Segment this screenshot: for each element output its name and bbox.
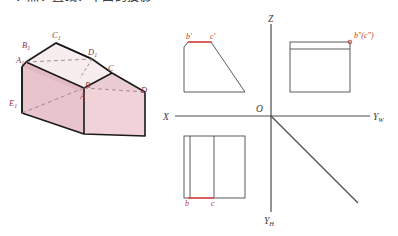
axis-label-YH: YH <box>264 216 274 227</box>
projection-group: Z X YW YH O b' c' b"(c") <box>162 14 384 227</box>
side-view-outline <box>290 42 350 92</box>
top-view-label-c: c <box>211 199 215 208</box>
figure-canvas: 一、点、直线、平面的投影 <box>0 0 398 236</box>
figure-svg: A1 B1 C1 D1 E1 A B C D Z X YW YH O <box>0 0 398 236</box>
solid-vertex-label-B: B <box>85 80 90 90</box>
axis-label-YW: YW <box>373 112 384 123</box>
top-view-outline <box>184 136 245 198</box>
axis-label-X: X <box>162 112 170 122</box>
solid-vertex-label-C1: C1 <box>52 30 61 41</box>
pictorial-solid-group: A1 B1 C1 D1 E1 A B C D <box>8 30 148 136</box>
front-view-label-c-prime: c' <box>210 32 216 41</box>
side-view-group: b"(c") <box>290 31 374 92</box>
solid-vertex-label-B1: B1 <box>22 40 30 51</box>
solid-vertex-label-D: D <box>140 85 148 95</box>
axis-label-Z: Z <box>268 14 274 24</box>
solid-vertex-label-A1: A1 <box>15 55 24 66</box>
solid-vertex-label-A: A <box>79 91 86 101</box>
front-view-group: b' c' <box>184 32 245 92</box>
top-view-label-b: b <box>185 199 189 208</box>
solid-vertex-label-C: C <box>108 63 114 73</box>
side-view-label-b-c-double-prime: b"(c") <box>354 31 374 40</box>
axis-label-O: O <box>256 104 263 114</box>
front-view-outline <box>184 42 245 92</box>
solid-vertex-label-E1: E1 <box>8 98 17 109</box>
solid-vertex-label-D1: D1 <box>87 47 97 58</box>
top-view-group: b c <box>184 136 245 208</box>
solid-face-front-bottom <box>84 88 145 136</box>
axis-bisector-diagonal <box>271 116 358 203</box>
front-view-label-b-prime: b' <box>186 32 192 41</box>
